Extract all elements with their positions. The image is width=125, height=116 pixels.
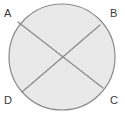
vertex-label-b: B [110, 8, 117, 19]
geometry-figure: A B C D [0, 0, 125, 116]
vertex-label-a: A [4, 8, 11, 19]
vertex-label-c: C [110, 95, 118, 106]
vertex-label-d: D [4, 95, 12, 106]
circle-diagram-svg [0, 0, 125, 116]
